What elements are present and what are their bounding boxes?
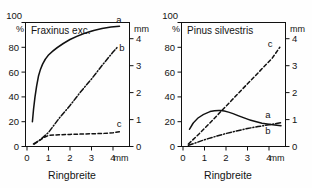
x-tick-label-0: 0 — [180, 152, 185, 163]
figure-root: 0 20 40 60 80 100 % 0 1 2 3 4 mm — [0, 0, 312, 188]
y-tick-label-right-3: 3 — [136, 60, 141, 71]
x-tick-label-3: 3 — [89, 152, 94, 163]
curve-label-b: b — [119, 42, 124, 53]
chart-panel-pinus: 0 20 40 60 80 100 % 0 1 2 3 4 mm — [156, 0, 312, 188]
y-tick-label-left-80: 80 — [164, 42, 175, 53]
x-tick-label-1: 1 — [202, 152, 207, 163]
y-tick-label-right-2: 2 — [292, 87, 297, 98]
x-axis-title: Ringbreite — [204, 169, 252, 181]
y-tick-label-right-4: 4 — [292, 33, 297, 44]
y-axis-left-unit: % — [16, 24, 24, 34]
y-axis-left-unit: % — [172, 24, 180, 34]
y-tick-label-right-3: 3 — [292, 60, 297, 71]
y-axis-right-unit: mm — [134, 24, 149, 34]
x-tick-label-3: 3 — [245, 152, 250, 163]
x-axis-unit: mm — [114, 153, 129, 163]
y-tick-label-right-0: 0 — [292, 141, 297, 152]
y-tick-label-left-40: 40 — [8, 91, 19, 102]
curve-label-b: b — [265, 125, 270, 136]
x-axis-ticks — [27, 147, 113, 151]
x-tick-label-2: 2 — [67, 152, 72, 163]
x-axis-unit: mm — [270, 153, 285, 163]
y-tick-label-right-1: 1 — [136, 114, 141, 125]
y-tick-label-right-2: 2 — [136, 87, 141, 98]
y-tick-label-right-4: 4 — [136, 33, 141, 44]
panel-title: Pinus silvestris — [187, 25, 253, 36]
curve-b-fraxinus — [34, 47, 118, 144]
x-tick-label-1: 1 — [46, 152, 51, 163]
y-tick-label-left-0: 0 — [14, 141, 19, 152]
curve-a-fraxinus — [32, 26, 119, 121]
y-tick-label-left-40: 40 — [164, 91, 175, 102]
x-tick-label-2: 2 — [223, 152, 228, 163]
y-axis-left-ticks — [178, 23, 182, 147]
curve-label-a: a — [265, 109, 271, 120]
x-axis-ticks — [183, 147, 269, 151]
y-tick-label-left-60: 60 — [8, 67, 19, 78]
y-tick-label-right-1: 1 — [292, 114, 297, 125]
y-axis-right-ticks — [286, 39, 290, 147]
plot-frame — [26, 23, 130, 147]
y-axis-right-unit: mm — [290, 24, 305, 34]
y-tick-label-left-100: 100 — [6, 10, 22, 21]
y-tick-label-right-0: 0 — [136, 141, 141, 152]
y-tick-label-left-20: 20 — [164, 116, 175, 127]
chart-panel-fraxinus: 0 20 40 60 80 100 % 0 1 2 3 4 mm — [0, 0, 156, 188]
curve-label-c: c — [117, 118, 122, 129]
chart-svg-fraxinus: 0 20 40 60 80 100 % 0 1 2 3 4 mm — [0, 0, 156, 188]
y-tick-label-left-0: 0 — [170, 141, 175, 152]
y-tick-label-left-80: 80 — [8, 42, 19, 53]
y-axis-right-ticks — [130, 39, 134, 147]
y-tick-label-left-20: 20 — [8, 116, 19, 127]
chart-svg-pinus: 0 20 40 60 80 100 % 0 1 2 3 4 mm — [156, 0, 312, 188]
curve-label-c: c — [268, 38, 273, 49]
x-tick-label-0: 0 — [24, 152, 29, 163]
y-tick-label-left-100: 100 — [162, 10, 178, 21]
x-axis-title: Ringbreite — [48, 169, 96, 181]
y-tick-label-left-60: 60 — [164, 67, 175, 78]
y-axis-left-ticks — [22, 23, 26, 147]
curve-label-a: a — [116, 14, 122, 25]
